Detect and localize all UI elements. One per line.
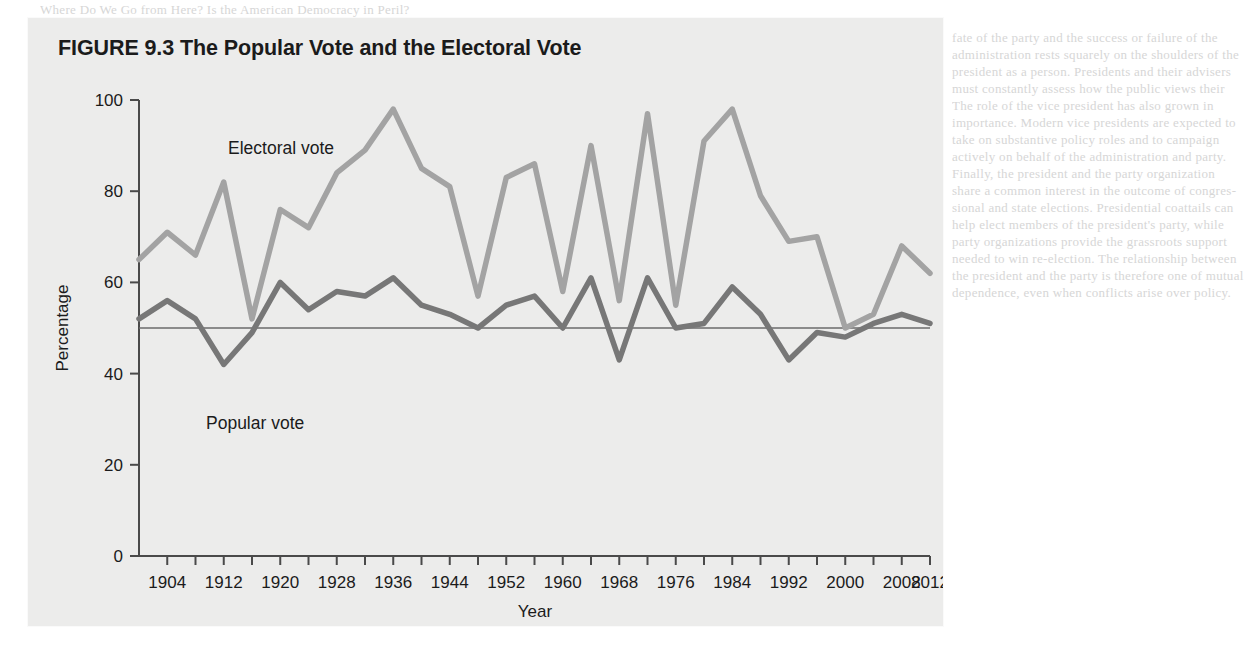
background-text-line: administration rests squarely on the sho… [952,47,1239,63]
background-text-line: Finally, the president and the party org… [952,166,1215,182]
popular-vote-series-label: Popular vote [206,413,304,433]
background-text-line: help elect members of the president's pa… [952,217,1224,233]
background-text-line: president as a person. Presidents and th… [952,64,1231,80]
background-text-line: needed to win re-election. The relations… [952,251,1237,267]
x-tick-label: 2000 [826,573,864,592]
background-text-line: dependence, even when conflicts arise ov… [952,285,1231,301]
chart-plot-area: 020406080100 190419121920192819361944195… [28,18,943,626]
x-tick-label: 1928 [318,573,356,592]
y-tick-label: 20 [104,456,123,475]
y-tick-label: 0 [114,547,123,566]
x-tick-label: 1984 [713,573,751,592]
x-tick-label: 1992 [770,573,808,592]
x-tick-label: 1904 [148,573,186,592]
y-tick-label: 60 [104,273,123,292]
y-tick-label: 40 [104,365,123,384]
x-tick-label: 1960 [544,573,582,592]
background-text-line: take on substantive policy roles and to … [952,132,1219,148]
electoral-vote-series-label: Electoral vote [228,138,334,158]
x-tick-label: 1952 [487,573,525,592]
figure-panel: FIGURE 9.3 The Popular Vote and the Elec… [28,18,943,626]
background-text-line: the president and the party is therefore… [952,268,1244,284]
background-text-line: must constantly assess how the public vi… [952,81,1225,97]
background-text-line: importance. Modern vice presidents are e… [952,115,1236,131]
y-tick-label: 100 [95,91,123,110]
line-chart: 020406080100 190419121920192819361944195… [28,18,943,626]
x-tick-label: 1912 [205,573,243,592]
x-tick-label: 2012 [911,573,943,592]
y-axis-title: Percentage [53,285,72,372]
y-tick-label: 80 [104,182,123,201]
background-text-line: sional and state elections. Presidential… [952,200,1234,216]
x-tick-label: 1944 [431,573,469,592]
x-tick-label: 1920 [261,573,299,592]
y-axis-ticks: 020406080100 [95,91,139,566]
background-text-line: fate of the party and the success or fai… [952,30,1218,46]
x-axis-title: Year [518,602,553,621]
background-text-line: share a common interest in the outcome o… [952,183,1236,199]
x-tick-label: 1936 [374,573,412,592]
background-text-line: party organizations provide the grassroo… [952,234,1227,250]
x-tick-label: 1968 [600,573,638,592]
x-axis-ticks: 1904191219201928193619441952196019681976… [148,556,943,592]
background-text-line: Where Do We Go from Here? Is the America… [40,2,410,18]
background-text-line: The role of the vice president has also … [952,98,1214,114]
x-tick-label: 1976 [657,573,695,592]
background-text-line: actively on behalf of the administration… [952,149,1226,165]
